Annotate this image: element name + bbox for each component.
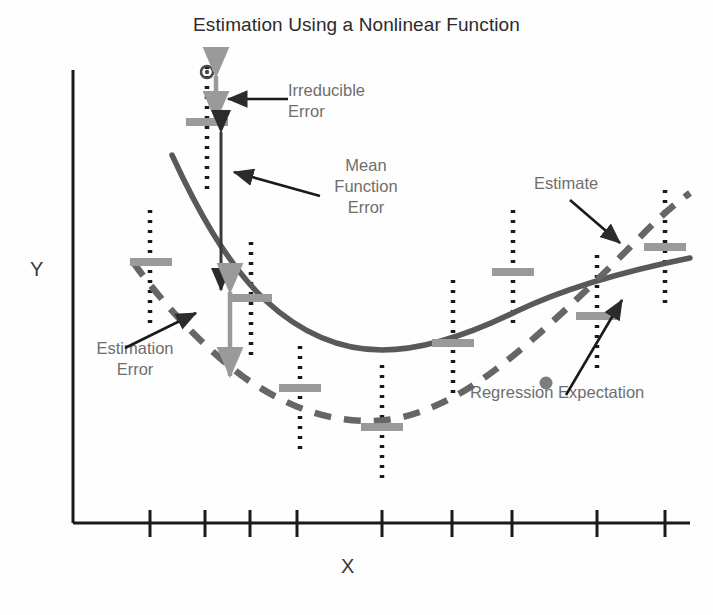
observation-columns-group [150,66,665,485]
mean-marker [432,339,474,347]
leader-line-mean-function-error [234,172,320,196]
figure-container: Estimation Using a Nonlinear Function Y … [0,0,713,615]
mean-marker [361,423,403,431]
mean-marker [186,118,228,126]
mean-marker [230,294,272,302]
mean-marker [130,258,172,266]
mean-marker [492,268,534,276]
plot-area [0,0,713,615]
observed-point-group [201,66,553,390]
stray-observation-dot [540,377,553,390]
mean-marker [279,384,321,392]
observed-point-dot [205,70,209,74]
leader-line-estimate [570,200,620,243]
estimate-curve [133,193,690,421]
mean-marker [644,243,686,251]
leader-line-estimation-error [125,313,196,348]
